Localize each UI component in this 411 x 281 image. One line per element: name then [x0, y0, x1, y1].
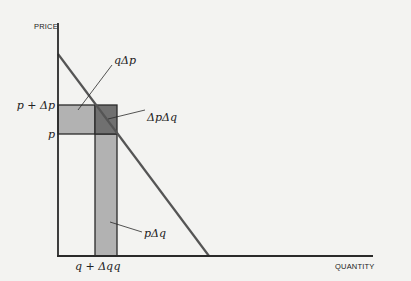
q-delta-p-label: qΔp [114, 54, 136, 67]
y-axis-label: PRICE [34, 22, 58, 31]
p-delta-q-label: pΔq [144, 227, 166, 240]
q-delta-p-rect [58, 105, 95, 134]
demand-line [58, 54, 209, 256]
demand-diagram: PRICE QUANTITY p + Δp p q + Δq q qΔp ΔpΔ… [0, 0, 411, 281]
quantity-low-label: q + Δq [75, 260, 113, 273]
delta-p-delta-q-label: ΔpΔq [146, 111, 177, 124]
quantity-high-label: q [113, 260, 120, 273]
x-axis-label: QUANTITY [335, 262, 375, 271]
p-delta-q-strip [95, 134, 117, 256]
price-low-label: p [48, 128, 55, 141]
price-high-label: p + Δp [17, 99, 55, 112]
